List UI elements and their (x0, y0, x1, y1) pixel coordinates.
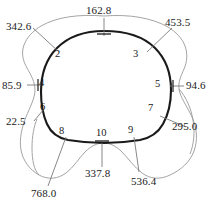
node-label-6: 6 (40, 102, 45, 113)
outer-contour-left-prong (32, 119, 39, 175)
measurement-label-94-6: 94.6 (186, 80, 206, 91)
measurement-label-453-5: 453.5 (165, 17, 190, 28)
node-label-7: 7 (148, 103, 153, 114)
measurement-label-337-8: 337.8 (85, 168, 110, 179)
leader-line-768-0 (48, 137, 66, 186)
measurement-label-768-0: 768.0 (31, 188, 56, 199)
contour-diagram: 342.6 162.8 453.5 85.9 94.6 22.5 295.0 3… (0, 0, 208, 209)
node-label-10: 10 (96, 128, 107, 139)
node-label-3: 3 (133, 49, 138, 60)
node-label-8: 8 (59, 126, 64, 137)
node-label-5: 5 (155, 79, 160, 90)
leader-line-453-5 (147, 28, 172, 52)
measurement-label-162-8: 162.8 (86, 5, 111, 16)
node-label-2: 2 (55, 49, 60, 60)
measurement-label-22-5: 22.5 (6, 116, 26, 127)
measurement-label-295-0: 295.0 (172, 121, 197, 132)
measurement-label-536-4: 536.4 (131, 176, 156, 187)
node-label-9: 9 (128, 125, 133, 136)
measurement-label-342-6: 342.6 (6, 21, 31, 32)
node-label-4: 4 (39, 78, 44, 89)
measurement-label-85-9: 85.9 (2, 80, 22, 91)
